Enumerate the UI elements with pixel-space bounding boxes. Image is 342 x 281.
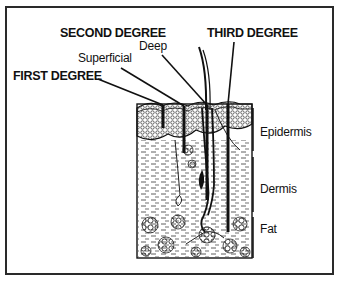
- skin-block: [137, 47, 252, 258]
- fat-label: Fat: [260, 223, 277, 235]
- superficial-label: Superficial: [78, 52, 132, 64]
- third-degree-label: THIRD DEGREE: [207, 27, 298, 40]
- first-degree-label: FIRST DEGREE: [13, 70, 102, 83]
- epidermis-label: Epidermis: [260, 126, 312, 138]
- dermis-label: Dermis: [260, 183, 297, 195]
- deep-label: Deep: [139, 40, 167, 52]
- second-degree-label: SECOND DEGREE: [60, 27, 166, 40]
- skin-cross-section-illustration: [0, 0, 342, 281]
